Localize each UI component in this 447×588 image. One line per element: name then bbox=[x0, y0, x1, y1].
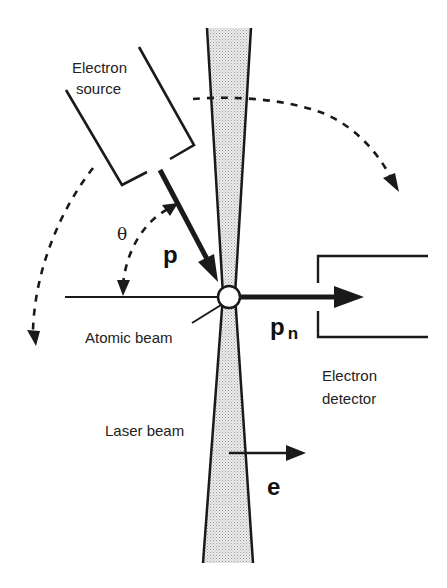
electron-scattering-diagram: Electron source θ p pn Atomic beam Elect… bbox=[0, 0, 447, 588]
theta-arrowhead-up-icon bbox=[162, 203, 178, 216]
detector-rotation-arrowhead-icon bbox=[383, 173, 399, 192]
e-label: e bbox=[267, 473, 280, 500]
electron-detector-label-line2: detector bbox=[322, 390, 376, 407]
pn-arrowhead-icon bbox=[334, 286, 364, 308]
electron-source-left-wall bbox=[66, 90, 147, 185]
pn-label: pn bbox=[270, 313, 298, 343]
p-label: p bbox=[163, 241, 178, 268]
pn-label-subscript: n bbox=[288, 324, 298, 343]
laser-beam-label: Laser beam bbox=[105, 422, 184, 439]
electron-source-label-line1: Electron bbox=[72, 59, 127, 76]
interaction-point bbox=[218, 286, 240, 308]
theta-arrowhead-down-icon bbox=[117, 280, 130, 296]
pn-vector-arrow bbox=[240, 286, 364, 308]
electron-source-label-line2: source bbox=[76, 80, 121, 97]
p-arrowhead-icon bbox=[198, 254, 218, 282]
atomic-beam-label: Atomic beam bbox=[85, 329, 173, 346]
electron-detector-bottom-wall bbox=[318, 311, 428, 337]
theta-label: θ bbox=[117, 224, 127, 244]
e-arrowhead-icon bbox=[286, 445, 306, 461]
electron-source-right-wall bbox=[139, 47, 194, 159]
source-rotation-arc bbox=[27, 168, 93, 346]
source-rotation-arrowhead-icon bbox=[27, 330, 40, 346]
electron-detector-label-line1: Electron bbox=[322, 367, 377, 384]
electron-detector-top-wall bbox=[318, 256, 428, 283]
atomic-beam-pointer bbox=[192, 305, 221, 323]
pn-label-main: p bbox=[270, 313, 285, 340]
